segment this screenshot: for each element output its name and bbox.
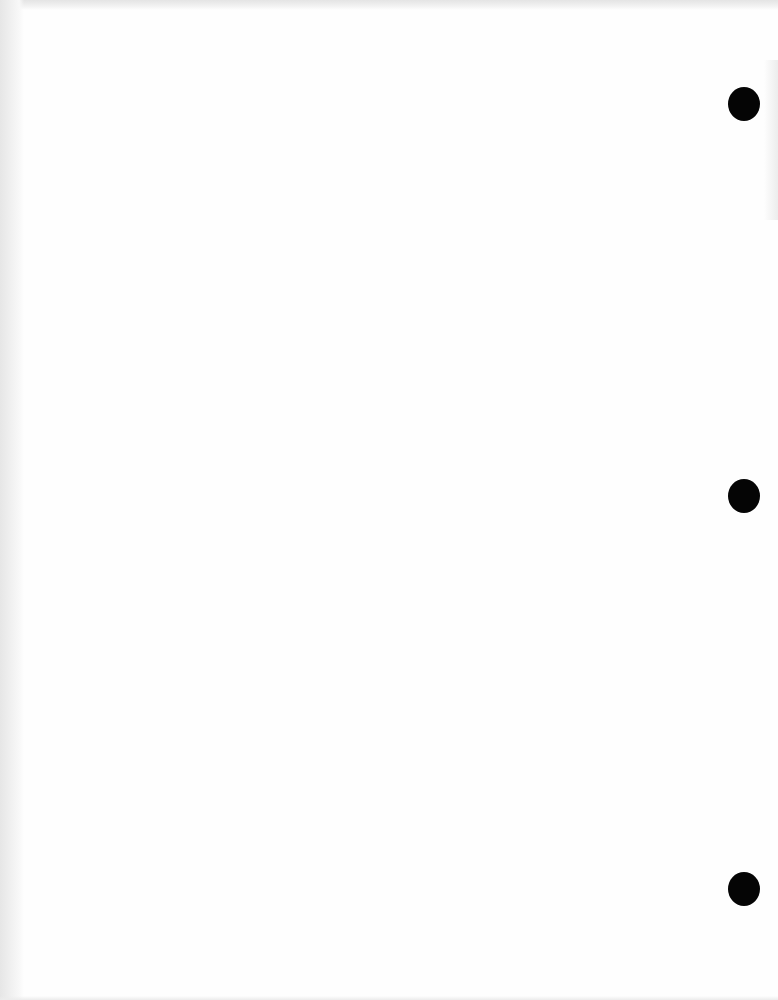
scan-shadow-right (764, 60, 778, 220)
scan-shadow-top (0, 0, 778, 10)
punch-hole-top (728, 87, 760, 121)
punch-hole-bottom (728, 872, 760, 906)
scan-shadow-bottom (0, 996, 778, 1000)
scan-shadow-left (0, 0, 24, 1000)
punch-hole-middle (728, 479, 760, 513)
blank-page (0, 0, 778, 1000)
